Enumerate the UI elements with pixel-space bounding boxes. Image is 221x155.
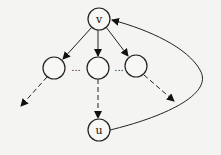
edge-c1-out	[21, 77, 47, 106]
edge-v-c1	[63, 27, 92, 59]
node-v: v	[88, 8, 110, 30]
node-child-1	[43, 57, 65, 79]
node-child-3	[125, 55, 147, 77]
ellipsis-left: ...	[71, 62, 81, 73]
back-edge-u-v	[110, 20, 203, 130]
svg-text:u: u	[95, 124, 102, 137]
tree-diagram: v u ... ...	[0, 0, 221, 155]
ellipsis-right: ...	[114, 62, 124, 73]
svg-text:v: v	[95, 13, 103, 26]
node-child-2	[87, 57, 109, 79]
node-u: u	[88, 119, 110, 141]
edge-c3-out	[144, 75, 174, 101]
edge-v-c3	[106, 27, 128, 56]
